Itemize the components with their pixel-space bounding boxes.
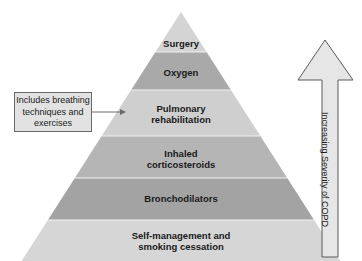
pulmonary-line-1: Pulmonary — [120, 103, 242, 114]
copd-treatment-pyramid-diagram: Surgery Oxygen Pulmonary rehabilitation … — [0, 0, 362, 261]
self-management-line-1: Self-management and — [90, 230, 272, 241]
callout-line-2: techniques and — [15, 107, 91, 119]
layer-pulmonary-rehabilitation-label: Pulmonary rehabilitation — [120, 103, 242, 125]
inhaled-line-1: Inhaled — [110, 148, 252, 159]
layer-oxygen-label: Oxygen — [140, 67, 222, 78]
severity-arrow-label: Increasing Severity of COPD — [318, 85, 332, 255]
pulmonary-line-2: rehabilitation — [120, 114, 242, 125]
callout-line-3: exercises — [15, 118, 91, 130]
layer-bronchodilators-label: Bronchodilators — [100, 193, 262, 204]
self-management-line-2: smoking cessation — [90, 241, 272, 252]
callout-line-1: Includes breathing — [15, 95, 91, 107]
inhaled-line-2: corticosteroids — [110, 159, 252, 170]
breathing-techniques-callout: Includes breathing techniques and exerci… — [14, 92, 92, 132]
layer-surgery-label: Surgery — [150, 38, 212, 49]
layer-inhaled-corticosteroids-label: Inhaled corticosteroids — [110, 148, 252, 170]
layer-self-management-label: Self-management and smoking cessation — [90, 230, 272, 252]
